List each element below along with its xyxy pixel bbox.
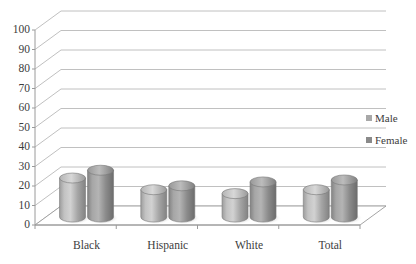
bar-chart-3d: 0102030405060708090100 BlackHispanicWhit… xyxy=(0,0,416,264)
legend-item-label: Male xyxy=(375,113,398,124)
legend-square-icon xyxy=(366,137,372,143)
chart-legend: Male Female xyxy=(366,110,416,154)
legend-item-label: Female xyxy=(375,135,407,146)
x-axis-category-label: Total xyxy=(319,239,342,251)
legend-item[interactable]: Female xyxy=(366,132,416,148)
x-axis-category-label: Black xyxy=(73,239,100,251)
legend-item[interactable]: Male xyxy=(366,110,416,126)
legend-square-icon xyxy=(366,115,372,121)
x-axis-category-label: White xyxy=(235,239,263,251)
x-axis-category-label: Hispanic xyxy=(147,239,188,251)
x-axis-category-labels: BlackHispanicWhiteTotal xyxy=(0,0,416,264)
